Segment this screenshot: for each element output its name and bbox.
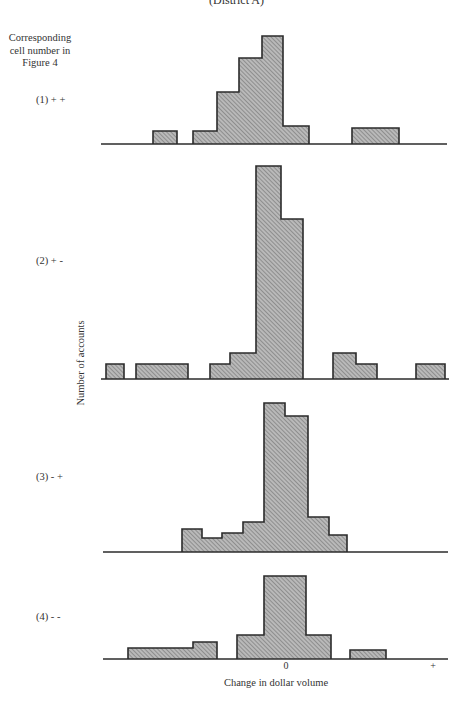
histogram-panel-3 — [103, 403, 448, 552]
x-tick-plus: + — [430, 660, 436, 671]
histogram-bar — [281, 219, 303, 379]
histogram-bar — [256, 166, 281, 379]
histogram-bar — [262, 36, 283, 144]
histogram-bar — [193, 131, 217, 144]
histogram-bar — [182, 529, 202, 552]
histogram-bar — [106, 364, 124, 379]
histogram-bar — [128, 648, 193, 659]
histogram-panel-1 — [101, 36, 447, 144]
histogram-bar — [352, 128, 399, 144]
histogram-bar — [264, 576, 306, 659]
histogram-bar — [230, 353, 256, 379]
histogram-bar — [308, 517, 329, 552]
panel-label-2: (2) + - — [36, 255, 63, 266]
histogram-panel-2 — [101, 166, 449, 379]
panel-label-4: (4) - - — [36, 611, 61, 622]
histogram-bar — [264, 403, 285, 552]
histogram-panels — [101, 36, 449, 659]
x-tick-zero: 0 — [284, 660, 289, 671]
panel-legend-header: Corresponding cell number in Figure 4 — [2, 32, 78, 70]
histogram-bar — [243, 522, 264, 552]
histogram-bar — [356, 364, 377, 379]
panel-label-3: (3) - + — [36, 471, 63, 482]
panel-label-1: (1) + + — [36, 94, 65, 105]
histogram-bar — [333, 353, 356, 379]
histogram-bar — [222, 533, 243, 552]
histogram-panel-4 — [103, 576, 448, 659]
figure-title: (District A) — [0, 0, 473, 8]
histogram-figure — [0, 0, 473, 713]
histogram-bar — [153, 131, 177, 144]
histogram-bar — [350, 650, 386, 659]
histogram-bar — [329, 535, 347, 552]
histogram-bar — [202, 538, 222, 552]
y-axis-label: Number of accounts — [75, 320, 86, 405]
histogram-bar — [306, 635, 331, 659]
histogram-bar — [239, 58, 262, 144]
histogram-bar — [283, 126, 309, 144]
histogram-bar — [210, 364, 230, 379]
x-axis-label: Change in dollar volume — [0, 677, 473, 688]
histogram-bar — [193, 642, 217, 659]
histogram-bar — [237, 635, 264, 659]
histogram-bar — [217, 92, 239, 144]
histogram-bar — [285, 416, 308, 552]
histogram-bar — [416, 364, 445, 379]
histogram-bar — [136, 364, 188, 379]
